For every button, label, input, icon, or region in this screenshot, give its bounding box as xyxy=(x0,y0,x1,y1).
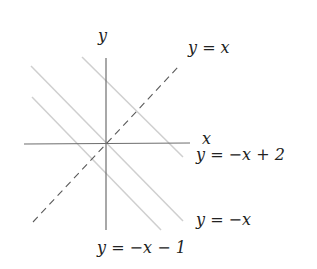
label-y-eq-neg-x: y = −x xyxy=(196,212,251,228)
label-y-eq-neg-x-minus-1: y = −x − 1 xyxy=(97,240,186,256)
diagram-graphics xyxy=(0,0,317,269)
label-y-eq-neg-x-plus-2: y = −x + 2 xyxy=(196,147,285,163)
line-diagram: y x y = x y = −x + 2 y = −x y = −x − 1 xyxy=(0,0,317,269)
line-y-neg-x-plus-2 xyxy=(82,57,183,157)
label-y-eq-x: y = x xyxy=(188,40,230,56)
y-axis-label: y xyxy=(98,28,107,44)
